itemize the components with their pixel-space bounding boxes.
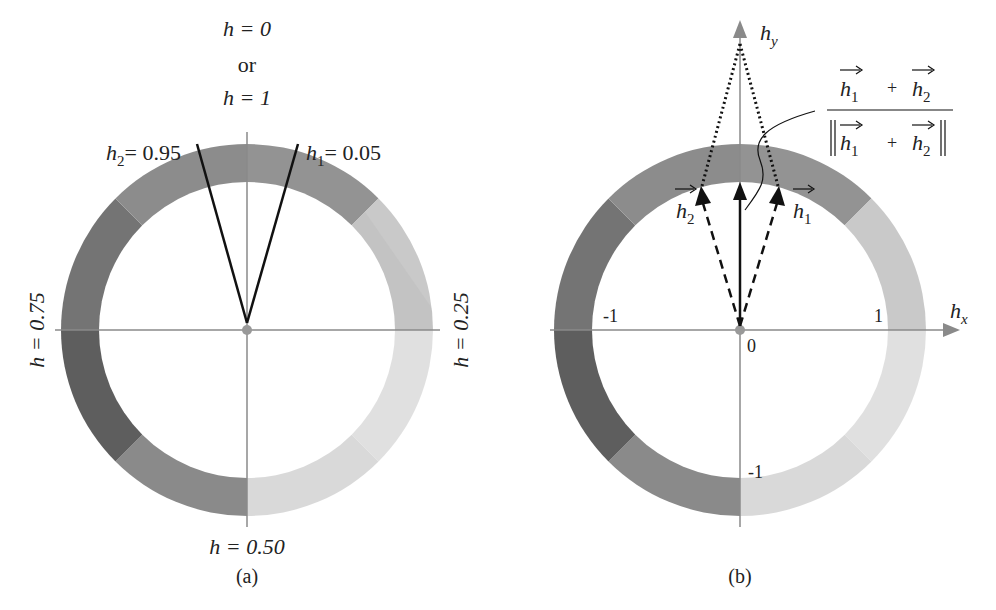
panel-a: h = 0 or h = 1 h2= 0.95 h1= 0.05 h = 0.7… [24,16,473,588]
origin-dot-b [735,325,745,335]
y-axis-arrow-icon [733,20,747,38]
svg-text:+: + [887,78,897,98]
x-axis-arrow-icon [943,323,960,337]
label-h1-top: h = 1 [223,85,271,110]
svg-text:h1: h1 [840,130,859,159]
tick-y-neg1: -1 [748,462,763,482]
label-h0: h = 0 [223,16,271,41]
label-h075: h = 0.75 [24,292,49,367]
y-axis-label: hy [760,20,778,49]
label-or: or [238,52,257,77]
svg-text:h1: h1 [840,76,859,105]
normalized-sum-formula: h1 + h2 h1 + h2 [827,66,953,159]
origin-dot-a [242,325,252,335]
tick-x-1: 1 [874,306,883,326]
svg-text:h2: h2 [912,76,931,105]
label-h025: h = 0.25 [448,292,473,367]
hue-circle-figure: h = 0 or h = 1 h2= 0.95 h1= 0.05 h = 0.7… [0,0,996,610]
label-h2-value: h2= 0.95 [106,140,181,169]
svg-text:h2: h2 [912,130,931,159]
caption-a: (a) [236,565,258,588]
caption-b: (b) [728,565,751,588]
origin-label: 0 [747,336,756,356]
x-axis-label: hx [950,298,968,327]
panel-b: h2 h1 h1 + h2 h1 + h [540,20,968,588]
label-h050: h = 0.50 [209,534,284,559]
svg-text:+: + [887,133,897,153]
tick-x-neg1: -1 [603,306,618,326]
